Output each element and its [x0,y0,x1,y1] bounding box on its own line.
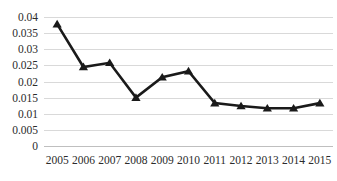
line-chart: 00.0050.010.0150.020.0250.030.0350.04 20… [0,0,337,181]
y-axis-tick-label: 0.01 [18,108,38,120]
x-axis-tick-label: 2007 [98,154,121,166]
data-point-marker [53,20,62,28]
y-axis-tick-label: 0.015 [12,92,38,104]
x-axis-tick-label: 2012 [230,154,253,166]
y-axis-tick-labels: 00.0050.010.0150.020.0250.030.0350.04 [12,11,38,152]
x-axis-tick-label: 2011 [203,154,226,166]
x-axis-tick-label: 2013 [256,154,279,166]
gridline-group [44,18,333,147]
y-axis-tick-label: 0.04 [18,11,38,23]
x-axis-tick-label: 2006 [72,154,95,166]
x-axis-tick-label: 2014 [282,154,305,166]
chart-plot-area: 00.0050.010.0150.020.0250.030.0350.04 20… [0,0,337,181]
y-axis-tick-label: 0.02 [18,76,38,88]
x-axis-tick-label: 2008 [124,154,147,166]
y-axis-tick-label: 0 [32,140,38,152]
x-axis-tick-label: 2010 [177,154,200,166]
y-axis-tick-label: 0.03 [18,43,38,55]
series-line-path [57,24,320,108]
y-axis-tick-label: 0.035 [12,27,38,39]
x-axis-tick-label: 2009 [151,154,174,166]
x-axis-tick-label: 2005 [46,154,69,166]
y-axis-tick-label: 0.005 [12,124,38,136]
x-axis-tick-label: 2015 [308,154,331,166]
x-axis-tick-labels: 2005200620072008200920102011201220132014… [46,154,332,166]
y-axis-tick-label: 0.025 [12,59,38,71]
